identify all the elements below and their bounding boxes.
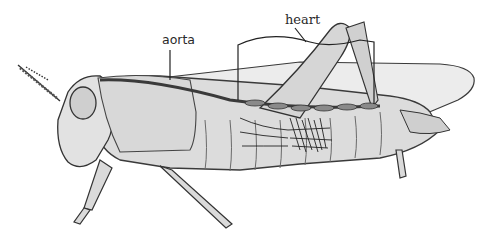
label-heart: heart — [285, 13, 320, 26]
compound-eye — [70, 87, 96, 119]
grasshopper-diagram — [0, 0, 492, 239]
label-aorta: aorta — [162, 34, 195, 47]
antenna — [18, 65, 60, 101]
